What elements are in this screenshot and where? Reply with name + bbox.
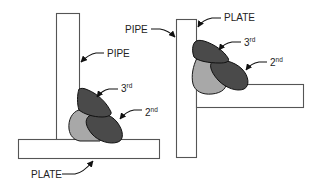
- left-plate: [19, 140, 160, 159]
- right-plate: [177, 20, 197, 158]
- left-third-label: 3rd: [121, 82, 133, 94]
- left-third-arrow: [97, 89, 118, 97]
- right-pipe-arrow: [151, 29, 175, 37]
- right-second-arrow: [246, 62, 267, 70]
- left-plate-arrow: [62, 161, 93, 174]
- left-pipe-label: PIPE: [107, 48, 130, 59]
- left-second-arrow: [120, 110, 142, 119]
- right-diagram: PLATE PIPE 3rd 2nd: [125, 12, 304, 158]
- right-third-label: 3rd: [244, 36, 256, 48]
- left-pipe-arrow: [81, 53, 104, 62]
- right-plate-arrow: [198, 18, 221, 27]
- right-third-arrow: [219, 42, 241, 50]
- right-plate-label: PLATE: [224, 12, 255, 23]
- left-second-label: 2nd: [145, 106, 158, 118]
- weld-diagram: PIPE 3rd 2nd PLATE PLATE PIPE 3rd 2nd: [0, 0, 317, 188]
- left-plate-label: PLATE: [31, 169, 62, 180]
- right-bead-3rd: [193, 40, 229, 63]
- right-pipe-label: PIPE: [125, 24, 148, 35]
- left-diagram: PIPE 3rd 2nd PLATE: [19, 14, 160, 181]
- left-bead-3rd: [78, 88, 112, 117]
- right-second-label: 2nd: [270, 56, 283, 68]
